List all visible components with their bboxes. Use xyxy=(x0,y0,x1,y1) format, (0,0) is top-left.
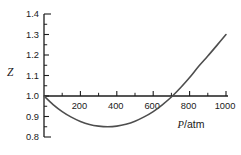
x-axis-unit: /atm xyxy=(184,118,204,130)
y-tick-label: 1.2 xyxy=(26,50,39,60)
x-tick-label: 600 xyxy=(144,101,160,111)
x-axis-label: P/atm xyxy=(163,119,219,131)
y-axis-label: Z xyxy=(7,67,13,79)
compressibility-figure: 0.80.91.01.11.21.31.42004006008001000 Z … xyxy=(0,0,241,155)
y-tick-label: 1.0 xyxy=(26,91,39,101)
z-curve xyxy=(44,35,226,127)
x-tick-label: 200 xyxy=(72,101,88,111)
y-tick-label: 1.1 xyxy=(26,71,39,81)
x-tick-label: 800 xyxy=(181,101,197,111)
y-tick-label: 1.4 xyxy=(26,9,39,19)
plot-svg: 0.80.91.01.11.21.31.42004006008001000 xyxy=(0,0,241,155)
y-tick-label: 0.9 xyxy=(26,112,39,122)
x-tick-label: 1000 xyxy=(215,101,236,111)
y-tick-label: 0.8 xyxy=(26,132,39,142)
y-tick-label: 1.3 xyxy=(26,30,39,40)
x-tick-label: 400 xyxy=(108,101,124,111)
